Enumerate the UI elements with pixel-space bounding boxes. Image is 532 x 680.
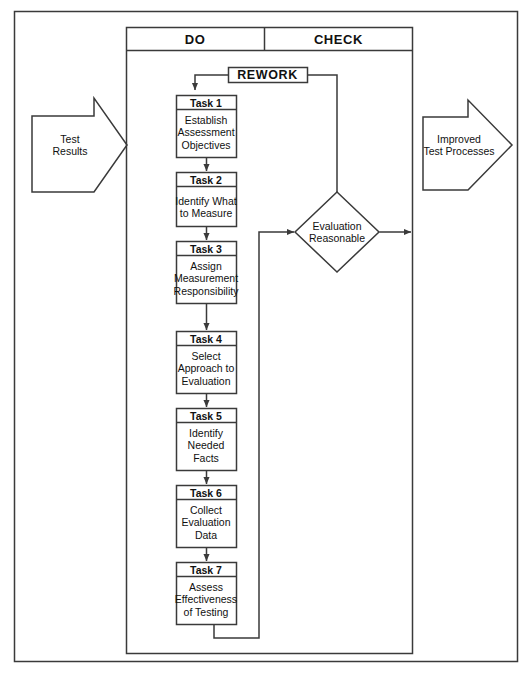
rework-from-decision-connector bbox=[308, 75, 338, 192]
process-panel bbox=[127, 28, 413, 654]
flowchart-canvas bbox=[0, 0, 532, 680]
rework-to-task1-connector bbox=[195, 75, 229, 90]
outer-frame bbox=[15, 12, 518, 662]
task-7-box bbox=[177, 563, 237, 625]
flowchart-diagram: DO CHECK REWORK Task 1 Establish Assessm… bbox=[0, 0, 532, 680]
task-6-box bbox=[177, 486, 237, 548]
improved-test-processes-block-arrow bbox=[423, 100, 512, 190]
test-results-block-arrow bbox=[32, 98, 127, 192]
rework-box bbox=[229, 68, 308, 83]
decision-diamond bbox=[295, 192, 379, 272]
task-4-box bbox=[177, 332, 237, 394]
task-2-box bbox=[177, 173, 237, 227]
task-3-box bbox=[177, 242, 237, 304]
task-5-box bbox=[177, 409, 237, 471]
task-1-box bbox=[177, 96, 237, 158]
